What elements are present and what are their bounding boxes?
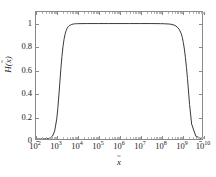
y-tick-mark — [199, 94, 202, 95]
x-minor-tick-mark — [105, 12, 106, 14]
y-tick-mark — [199, 118, 202, 119]
y-tick-mark — [199, 71, 202, 72]
x-tick-label: 106 — [113, 142, 125, 151]
x-minor-tick-mark — [130, 137, 131, 139]
x-minor-tick-mark — [172, 137, 173, 139]
x-tick-mark — [204, 12, 205, 15]
x-minor-tick-mark — [67, 137, 68, 139]
x-minor-tick-mark — [154, 137, 155, 139]
x-minor-tick-mark — [112, 12, 113, 14]
x-minor-tick-mark — [161, 12, 162, 14]
x-tick-mark — [78, 136, 79, 139]
x-minor-tick-mark — [42, 12, 43, 14]
x-minor-tick-mark — [172, 12, 173, 14]
x-tick-label: 107 — [134, 142, 146, 151]
x-minor-tick-mark — [119, 12, 120, 14]
x-minor-tick-mark — [203, 12, 204, 14]
x-minor-tick-mark — [151, 137, 152, 139]
y-axis-label: H(x) — [4, 35, 13, 95]
x-tick-mark — [57, 136, 58, 139]
x-minor-tick-mark — [133, 12, 134, 14]
plot-area — [35, 11, 203, 140]
y-tick-label: 0.2 — [21, 112, 32, 121]
x-tick-mark — [99, 12, 100, 15]
x-tick-label: 108 — [155, 142, 167, 151]
x-tick-label: 109 — [176, 142, 188, 151]
x-tick-mark — [183, 136, 184, 139]
x-tick-label: 1010 — [196, 142, 211, 151]
x-tick-mark — [120, 12, 121, 15]
x-axis-label: x — [35, 158, 203, 167]
x-minor-tick-mark — [203, 137, 204, 139]
x-minor-tick-mark — [56, 12, 57, 14]
y-tick-mark — [36, 94, 39, 95]
x-minor-tick-mark — [42, 137, 43, 139]
x-tick-mark — [183, 12, 184, 15]
x-minor-tick-mark — [49, 12, 50, 14]
x-minor-tick-mark — [49, 137, 50, 139]
x-axis-label-text: x — [117, 158, 121, 167]
x-tick-mark — [78, 12, 79, 15]
x-tick-mark — [36, 12, 37, 15]
x-minor-tick-mark — [133, 137, 134, 139]
x-minor-tick-mark — [140, 12, 141, 14]
x-minor-tick-mark — [168, 12, 169, 14]
x-minor-tick-mark — [98, 12, 99, 14]
x-minor-tick-mark — [77, 12, 78, 14]
x-minor-tick-mark — [182, 12, 183, 14]
y-tick-mark — [199, 24, 202, 25]
x-minor-tick-mark — [109, 137, 110, 139]
x-minor-tick-mark — [196, 137, 197, 139]
x-minor-tick-mark — [70, 137, 71, 139]
x-minor-tick-mark — [140, 137, 141, 139]
y-tick-mark — [36, 47, 39, 48]
x-minor-tick-mark — [196, 12, 197, 14]
y-tick-label: 0.4 — [21, 89, 32, 98]
x-tick-mark — [162, 12, 163, 15]
x-minor-tick-mark — [56, 137, 57, 139]
x-minor-tick-mark — [119, 137, 120, 139]
x-minor-tick-mark — [147, 12, 148, 14]
x-minor-tick-mark — [189, 137, 190, 139]
x-minor-tick-mark — [175, 137, 176, 139]
x-tick-label: 104 — [71, 142, 83, 151]
x-minor-tick-mark — [175, 12, 176, 14]
y-axis-label-function: H — [3, 66, 13, 73]
x-minor-tick-mark — [84, 12, 85, 14]
x-tick-mark — [141, 136, 142, 139]
x-minor-tick-mark — [154, 12, 155, 14]
x-minor-tick-mark — [105, 137, 106, 139]
x-minor-tick-mark — [151, 12, 152, 14]
x-tick-mark — [120, 136, 121, 139]
x-tick-mark — [36, 136, 37, 139]
x-tick-mark — [141, 12, 142, 15]
x-minor-tick-mark — [88, 12, 89, 14]
x-tick-mark — [99, 136, 100, 139]
x-minor-tick-mark — [130, 12, 131, 14]
x-minor-tick-mark — [189, 12, 190, 14]
y-tick-mark — [199, 47, 202, 48]
x-minor-tick-mark — [182, 137, 183, 139]
x-minor-tick-mark — [147, 137, 148, 139]
x-minor-tick-mark — [126, 137, 127, 139]
x-tick-label: 102 — [29, 142, 41, 151]
y-tick-label: 0.6 — [21, 65, 32, 74]
x-tick-mark — [162, 136, 163, 139]
x-minor-tick-mark — [84, 137, 85, 139]
x-minor-tick-mark — [168, 137, 169, 139]
y-tick-label: 0.8 — [21, 42, 32, 51]
x-minor-tick-mark — [63, 137, 64, 139]
y-tick-label: 1 — [28, 18, 32, 27]
x-tick-mark — [57, 12, 58, 15]
x-tick-label: 105 — [92, 142, 104, 151]
x-minor-tick-mark — [112, 137, 113, 139]
x-minor-tick-mark — [98, 137, 99, 139]
y-tick-mark — [36, 71, 39, 72]
x-minor-tick-mark — [46, 12, 47, 14]
curve-line — [36, 12, 202, 139]
x-minor-tick-mark — [193, 12, 194, 14]
x-minor-tick-mark — [91, 12, 92, 14]
x-minor-tick-mark — [46, 137, 47, 139]
y-tick-mark — [36, 24, 39, 25]
y-axis-label-arg: x — [4, 59, 13, 63]
